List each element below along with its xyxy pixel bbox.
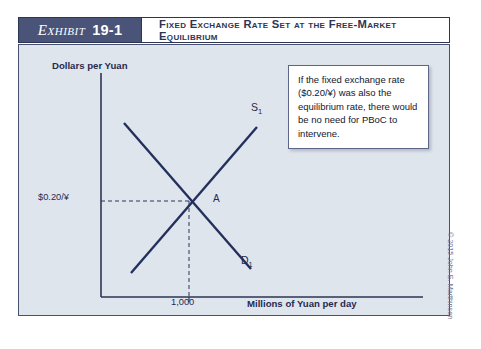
demand-curve-label-text: D xyxy=(241,254,249,266)
exhibit-title-bar: Fixed Exchange Rate Set at the Free-Mark… xyxy=(142,17,450,43)
callout-box: If the fixed exchange rate ($0.20/¥) was… xyxy=(288,65,429,149)
x-axis-title: Millions of Yuan per day xyxy=(247,298,357,309)
supply-curve-label-text: S xyxy=(251,101,258,113)
exhibit-label: Exhibit xyxy=(38,22,86,39)
demand-curve-label-subscript: 1 xyxy=(249,260,253,269)
y-axis-tick-label: $0.20/¥ xyxy=(38,192,69,202)
y-axis-title: Dollars per Yuan xyxy=(52,60,128,71)
supply-curve-label-subscript: 1 xyxy=(258,107,262,116)
demand-curve xyxy=(124,123,251,269)
exhibit-header: Exhibit 19-1 Fixed Exchange Rate Set at … xyxy=(18,17,450,43)
supply-curve xyxy=(131,127,257,273)
copyright-notice: © 2015 John E. Marthinsen xyxy=(446,232,455,319)
supply-curve-label: S1 xyxy=(251,101,262,116)
callout-text: If the fixed exchange rate ($0.20/¥) was… xyxy=(298,73,420,140)
equilibrium-point-label: A xyxy=(213,193,220,204)
chart-panel: Dollars per Yuan Millions of Yuan per da… xyxy=(18,44,450,316)
demand-curve-label: D1 xyxy=(241,254,253,269)
exhibit-number-tab: Exhibit 19-1 xyxy=(18,17,142,43)
exhibit-title: Fixed Exchange Rate Set at the Free-Mark… xyxy=(142,18,449,42)
exhibit-number: 19-1 xyxy=(92,22,122,38)
x-axis-tick-label: 1,000 xyxy=(171,297,194,307)
exhibit-figure: Exhibit 19-1 Fixed Exchange Rate Set at … xyxy=(0,0,481,349)
